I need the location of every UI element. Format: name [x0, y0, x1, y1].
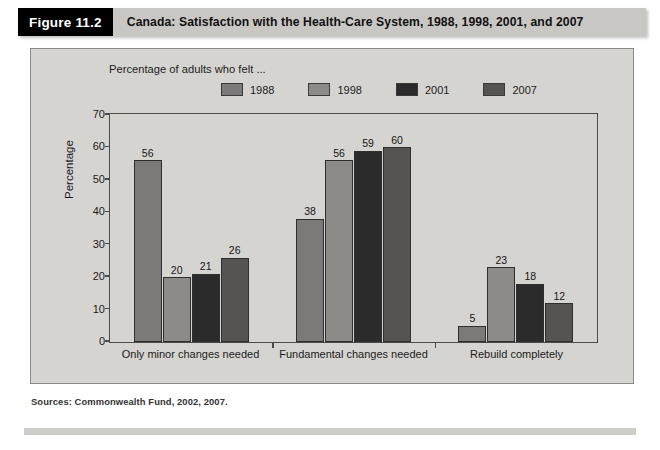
legend-caption: Percentage of adults who felt ... — [109, 63, 266, 75]
bar-rect[interactable] — [458, 326, 486, 342]
bar-value-label: 59 — [362, 138, 374, 149]
bar-rect[interactable] — [545, 303, 573, 342]
bar-rect[interactable] — [487, 267, 515, 342]
y-tick-mark — [105, 211, 110, 213]
bar-2007-2[interactable]: 12 — [545, 114, 573, 342]
bar-1988-2[interactable]: 5 — [458, 114, 486, 342]
bar-rect[interactable] — [354, 151, 382, 342]
bar-2007-1[interactable]: 60 — [383, 114, 411, 342]
y-tick-mark — [105, 340, 110, 342]
bar-rect[interactable] — [325, 160, 353, 342]
bar-2001-1[interactable]: 59 — [354, 114, 382, 342]
legend-label-1988: 1988 — [250, 84, 274, 96]
bar-value-label: 20 — [171, 265, 183, 276]
bar-value-label: 12 — [553, 291, 565, 302]
y-tick-mark — [105, 113, 110, 115]
bar-2001-0[interactable]: 21 — [192, 114, 220, 342]
x-axis-category-labels: Only minor changes neededFundamental cha… — [109, 348, 598, 362]
legend-swatch-2007 — [483, 83, 505, 96]
figure-title: Canada: Satisfaction with the Health-Car… — [113, 8, 584, 36]
y-tick-mark — [105, 178, 110, 180]
category-label-0: Only minor changes needed — [109, 348, 272, 362]
plot-area: 56202126385659605231812 010203040506070 — [109, 113, 598, 343]
legend-label-2001: 2001 — [425, 84, 449, 96]
bar-rect[interactable] — [221, 258, 249, 342]
bar-group-0: 56202126 — [110, 114, 272, 342]
bar-group-1: 38565960 — [272, 114, 434, 342]
figure-number-tag: Figure 11.2 — [18, 8, 113, 36]
figure-title-bar: Figure 11.2 Canada: Satisfaction with th… — [18, 8, 646, 36]
legend-label-1998: 1998 — [337, 84, 361, 96]
y-tick-mark — [105, 243, 110, 245]
bar-1998-2[interactable]: 23 — [487, 114, 515, 342]
y-axis-title: Percentage — [63, 140, 75, 199]
chart-legend: 1988199820012007 — [221, 83, 537, 96]
source-note: Sources: Commonwealth Fund, 2002, 2007. — [31, 396, 228, 407]
chart-panel: Percentage of adults who felt ... 198819… — [30, 48, 634, 384]
bar-value-label: 26 — [229, 245, 241, 256]
bars-area: 56202126385659605231812 — [110, 114, 597, 342]
footer-bar — [24, 428, 636, 435]
bar-value-label: 21 — [200, 261, 212, 272]
category-label-1: Fundamental changes needed — [272, 348, 435, 362]
legend-item-2007: 2007 — [483, 83, 536, 96]
bar-rect[interactable] — [383, 147, 411, 342]
legend-item-1998: 1998 — [308, 83, 361, 96]
bar-1988-0[interactable]: 56 — [134, 114, 162, 342]
bar-rect[interactable] — [163, 277, 191, 342]
bar-1988-1[interactable]: 38 — [296, 114, 324, 342]
bar-value-label: 18 — [524, 271, 536, 282]
bar-1998-0[interactable]: 20 — [163, 114, 191, 342]
bar-group-2: 5231812 — [435, 114, 597, 342]
legend-swatch-1998 — [308, 83, 330, 96]
bar-rect[interactable] — [296, 219, 324, 342]
category-label-2: Rebuild completely — [435, 348, 598, 362]
bar-2001-2[interactable]: 18 — [516, 114, 544, 342]
y-tick-mark — [105, 308, 110, 310]
bar-2007-0[interactable]: 26 — [221, 114, 249, 342]
bar-value-label: 38 — [304, 206, 316, 217]
legend-label-2007: 2007 — [512, 84, 536, 96]
bar-value-label: 5 — [469, 313, 475, 324]
bar-rect[interactable] — [134, 160, 162, 342]
y-tick-mark — [105, 275, 110, 277]
bar-rect[interactable] — [192, 274, 220, 342]
bar-rect[interactable] — [516, 284, 544, 342]
legend-swatch-1988 — [221, 83, 243, 96]
bar-value-label: 56 — [142, 148, 154, 159]
bar-value-label: 23 — [495, 255, 507, 266]
bar-1998-1[interactable]: 56 — [325, 114, 353, 342]
legend-swatch-2001 — [396, 83, 418, 96]
legend-item-2001: 2001 — [396, 83, 449, 96]
bar-value-label: 60 — [391, 135, 403, 146]
y-tick-mark — [105, 146, 110, 148]
legend-item-1988: 1988 — [221, 83, 274, 96]
bar-value-label: 56 — [333, 148, 345, 159]
